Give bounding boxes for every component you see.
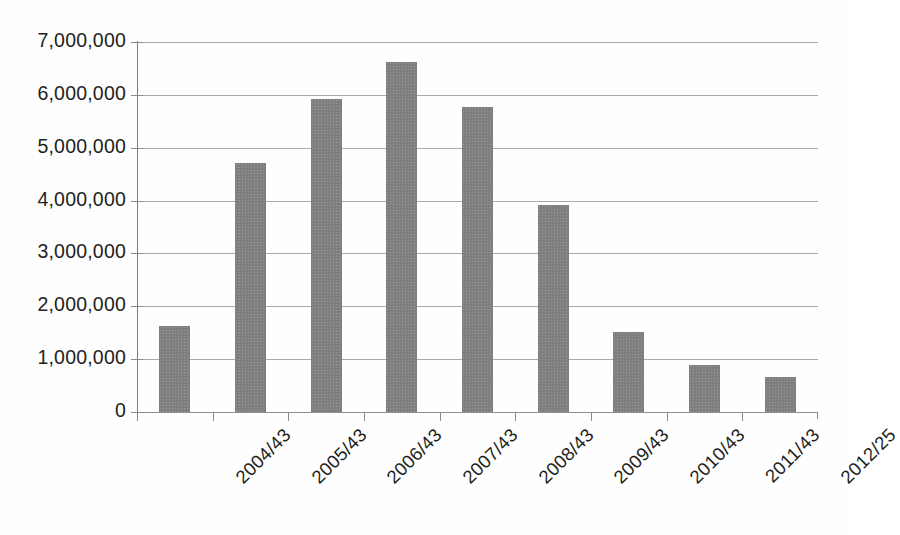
y-axis-label: 7,000,000 <box>37 29 126 52</box>
bar <box>538 205 569 412</box>
y-axis-label: 0 <box>115 399 126 422</box>
y-axis-tick <box>131 148 143 149</box>
y-axis-label: 5,000,000 <box>37 135 126 158</box>
x-axis-tick <box>213 413 214 421</box>
y-axis-line <box>137 41 138 413</box>
x-axis-tick <box>137 413 138 421</box>
x-axis-label: 2005/43 <box>307 424 371 488</box>
x-axis-label: 2010/43 <box>685 424 749 488</box>
x-axis-end-tick <box>817 412 818 419</box>
x-axis-label: 2004/43 <box>231 424 295 488</box>
y-axis-label: 2,000,000 <box>37 293 126 316</box>
y-axis-tick <box>131 306 143 307</box>
y-axis-label: 6,000,000 <box>37 82 126 105</box>
gridline <box>137 95 818 96</box>
bar <box>462 107 493 413</box>
x-axis-tick <box>591 413 592 421</box>
x-axis-tick <box>288 413 289 421</box>
bar <box>689 365 720 412</box>
bar <box>311 99 342 412</box>
y-axis-tick <box>131 359 143 360</box>
y-axis-tick <box>131 201 143 202</box>
y-axis-tick <box>131 253 143 254</box>
y-axis-label: 3,000,000 <box>37 240 126 263</box>
y-axis-label: 1,000,000 <box>37 346 126 369</box>
x-axis-label: 2009/43 <box>609 424 673 488</box>
bar <box>386 62 417 412</box>
x-axis-tick <box>364 413 365 421</box>
plot-area <box>137 42 818 412</box>
bar <box>613 332 644 412</box>
y-axis-tick <box>131 42 143 43</box>
bar <box>235 163 266 412</box>
x-axis-baseline <box>137 412 818 413</box>
y-axis-label: 4,000,000 <box>37 188 126 211</box>
x-axis-label: 2011/43 <box>760 424 823 487</box>
x-axis-label: 2012/25 <box>836 424 900 488</box>
x-axis-tick <box>515 413 516 421</box>
x-axis-tick <box>667 413 668 421</box>
x-axis-label: 2007/43 <box>458 424 522 488</box>
bar <box>159 326 190 412</box>
bar <box>765 377 796 412</box>
x-axis-label: 2008/43 <box>534 424 598 488</box>
x-axis-tick <box>440 413 441 421</box>
y-axis-tick <box>131 95 143 96</box>
gridline <box>137 42 818 43</box>
x-axis-tick <box>742 413 743 421</box>
x-axis-label: 2006/43 <box>382 424 446 488</box>
